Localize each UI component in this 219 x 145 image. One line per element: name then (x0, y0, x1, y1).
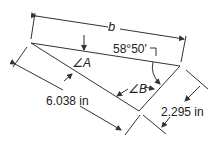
angle-a-label: ∠A (72, 57, 91, 69)
angle-b-label: ∠B (128, 83, 147, 95)
side-long-label: 6.038 in (46, 95, 89, 107)
angle-value-label: 58°50' (113, 43, 147, 55)
side-b-label: b (108, 21, 115, 33)
side-short-label: 2.295 in (161, 106, 204, 118)
